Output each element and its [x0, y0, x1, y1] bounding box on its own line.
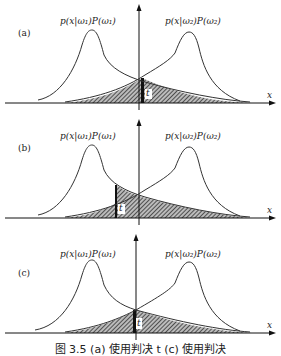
- class2-density-label: p(x|ω₂)P(ω₂): [165, 131, 221, 141]
- figure-caption: 图 3.5 (a) 使用判决 t (c) 使用判决: [0, 340, 281, 356]
- panel-a: (a) p(x|ω₁)P(ω₁) p(x|ω₂)P(ω₂) t x: [0, 0, 281, 115]
- panel-b-graphic: [0, 115, 281, 230]
- panel-c-label: (c): [18, 268, 30, 278]
- class2-density-label: p(x|ω₂)P(ω₂): [165, 16, 221, 26]
- x-axis-label: x: [267, 90, 272, 100]
- x-axis-label: x: [267, 320, 272, 330]
- threshold-label: t: [119, 203, 123, 213]
- panel-c: (c) p(x|ω₁)P(ω₁) p(x|ω₂)P(ω₂) t x: [0, 230, 281, 345]
- class2-density-label: p(x|ω₂)P(ω₂): [165, 249, 221, 259]
- panel-b: (b) p(x|ω₁)P(ω₁) p(x|ω₂)P(ω₂) t x: [0, 115, 281, 230]
- class1-density-label: p(x|ω₁)P(ω₁): [60, 131, 116, 141]
- class1-density-label: p(x|ω₁)P(ω₁): [60, 249, 116, 259]
- panel-a-label: (a): [18, 28, 30, 38]
- panel-b-label: (b): [18, 143, 31, 153]
- class1-density-label: p(x|ω₁)P(ω₁): [60, 16, 116, 26]
- threshold-label: t: [137, 318, 141, 328]
- threshold-label: t: [146, 88, 150, 98]
- panel-a-graphic: [0, 0, 281, 115]
- x-axis-label: x: [267, 205, 272, 215]
